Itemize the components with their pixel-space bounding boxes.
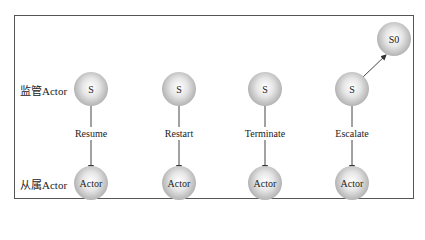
node-label: S [176, 84, 182, 95]
subordinate-node-restart: Actor [162, 166, 196, 200]
strategy-label-restart: Restart [165, 127, 193, 140]
strategy-label-terminate: Terminate [245, 127, 285, 140]
strategy-label-escalate: Escalate [335, 127, 368, 140]
supervisor-node-escalate: S [335, 72, 369, 106]
node-label: S [88, 84, 94, 95]
node-label: Actor [341, 178, 364, 189]
supervisor-node-restart: S [162, 72, 196, 106]
node-label: S [262, 84, 268, 95]
supervisor-node-terminate: S [248, 72, 282, 106]
parent-node-escalate: S0 [377, 22, 411, 56]
row-label-subordinate: 从属Actor [20, 176, 67, 192]
strategy-label-resume: Resume [75, 127, 107, 140]
subordinate-node-terminate: Actor [248, 166, 282, 200]
node-label: S [349, 84, 355, 95]
node-label: S0 [389, 34, 400, 45]
node-label: Actor [254, 178, 277, 189]
subordinate-node-escalate: Actor [335, 166, 369, 200]
supervisor-node-resume: S [74, 72, 108, 106]
row-label-supervisor: 监管Actor [20, 82, 67, 98]
subordinate-node-resume: Actor [74, 166, 108, 200]
node-label: Actor [80, 178, 103, 189]
node-label: Actor [168, 178, 191, 189]
